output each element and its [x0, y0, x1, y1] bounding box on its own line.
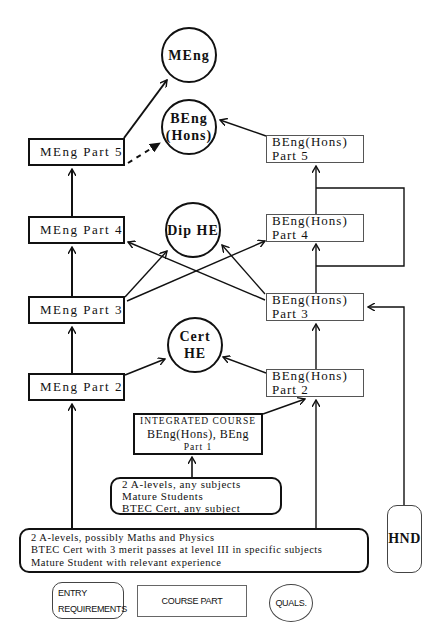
legend-course-part: COURSE PART	[137, 585, 247, 617]
entry-direct-line: 2 A-levels, possibly Maths and Physics	[31, 532, 367, 545]
beng-part-2-line1: BEng(Hons)	[272, 369, 363, 383]
edge-meng3-diphe	[125, 251, 167, 297]
edge-meng2-certhe	[125, 359, 165, 375]
qual-meng-label: MEng	[168, 47, 209, 64]
beng-part-5: BEng(Hons) Part 5	[266, 135, 364, 163]
beng-part-2: BEng(Hons) Part 2	[266, 369, 364, 397]
entry-foundation-line: BTEC Cert, any subject	[122, 502, 280, 514]
edge-beng2-certhe	[223, 357, 266, 373]
qual-meng: MEng	[161, 27, 217, 83]
meng-part-2-label: MEng Part 2	[40, 379, 123, 395]
edge-integrated-beng2	[263, 399, 305, 414]
qual-dip-he-label: Dip HE	[167, 222, 219, 239]
entry-direct-line: BTEC Cert with 3 merit passes at level I…	[31, 544, 367, 557]
entry-requirements-foundation: 2 A-levels, any subjects Mature Students…	[110, 477, 282, 515]
legend-entry-line1: ENTRY	[58, 585, 123, 601]
integrated-course-part: Part 1	[184, 441, 212, 454]
legend-entry-requirements: ENTRY REQUIREMENTS	[52, 582, 124, 619]
hnd-label: HND	[388, 531, 421, 547]
entry-foundation-line: Mature Students	[122, 490, 280, 502]
beng-part-3-line1: BEng(Hons)	[272, 293, 363, 307]
edge-beng3-diphe	[222, 245, 265, 294]
meng-part-3-label: MEng Part 3	[40, 302, 123, 318]
beng-part-4-line2: Part 4	[272, 228, 363, 242]
edge-meng5-beng-dashed	[128, 143, 160, 163]
meng-part-2: MEng Part 2	[28, 373, 125, 401]
meng-part-3: MEng Part 3	[28, 296, 125, 324]
entry-requirements-direct: 2 A-levels, possibly Maths and Physics B…	[19, 528, 369, 573]
entry-hnd: HND	[387, 505, 422, 573]
integrated-course-title: INTEGRATED COURSE	[140, 415, 256, 428]
entry-foundation-line: 2 A-levels, any subjects	[122, 478, 280, 490]
qual-cert-he-line2: HE	[184, 345, 206, 362]
beng-part-2-line2: Part 2	[272, 383, 363, 397]
meng-part-5-label: MEng Part 5	[40, 144, 123, 160]
qual-cert-he: Cert HE	[167, 317, 223, 373]
edge-beng5-benghons	[220, 120, 266, 136]
qual-dip-he: Dip HE	[165, 202, 221, 258]
qual-beng-hons: BEng (Hons)	[161, 99, 217, 155]
beng-part-5-line1: BEng(Hons)	[272, 135, 363, 149]
qual-beng-hons-line2: (Hons)	[166, 127, 212, 144]
edge-hnd-beng3	[368, 307, 404, 505]
meng-part-4: MEng Part 4	[28, 216, 125, 244]
legend-entry-line2: REQUIREMENTS	[58, 601, 123, 617]
legend-quals: QUALS.	[269, 584, 313, 622]
qual-cert-he-line1: Cert	[179, 328, 210, 345]
beng-part-3: BEng(Hons) Part 3	[266, 293, 364, 321]
beng-part-5-line2: Part 5	[272, 149, 363, 163]
integrated-course-degrees: BEng(Hons), BEng	[147, 428, 249, 441]
beng-part-3-line2: Part 3	[272, 307, 363, 321]
meng-part-4-label: MEng Part 4	[40, 222, 123, 238]
legend-quals-label: QUALS.	[275, 598, 306, 608]
entry-direct-line: Mature Student with relevant experience	[31, 557, 367, 570]
integrated-course-part-1: INTEGRATED COURSE BEng(Hons), BEng Part …	[133, 413, 263, 455]
beng-part-4: BEng(Hons) Part 4	[266, 214, 364, 242]
meng-part-5: MEng Part 5	[28, 138, 125, 166]
legend-course-part-label: COURSE PART	[162, 596, 223, 606]
qual-beng-hons-line1: BEng	[170, 110, 207, 127]
beng-part-4-line1: BEng(Hons)	[272, 214, 363, 228]
